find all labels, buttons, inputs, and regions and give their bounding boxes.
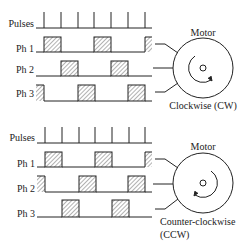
pulse-train xyxy=(36,12,152,28)
ph1-label: Ph 1 xyxy=(17,158,35,169)
motor-wires xyxy=(153,159,178,209)
ph2-waveform xyxy=(37,176,152,192)
motor-label: Motor xyxy=(191,141,217,152)
motor-label: Motor xyxy=(191,27,217,38)
ccw-panel: Pulses Ph 1 Ph 2 Ph 3 xyxy=(9,127,235,241)
ph2-label: Ph 2 xyxy=(17,183,35,194)
motor-wires xyxy=(153,44,178,92)
motor-cw xyxy=(173,38,233,98)
ph3-waveform xyxy=(36,85,152,101)
ph2-label: Ph 2 xyxy=(16,64,34,75)
direction-label: Counter-clockwise xyxy=(160,216,236,227)
stepper-motor-timing-diagram: Pulses Ph 1 Ph 2 Ph 3 xyxy=(0,0,247,245)
pulses-label: Pulses xyxy=(9,132,35,143)
direction-label: Clockwise (CW) xyxy=(169,100,237,112)
pulse-train xyxy=(37,127,152,143)
ph3-waveform xyxy=(37,200,152,217)
direction-label-abbr: (CCW) xyxy=(160,229,189,241)
ph1-waveform xyxy=(37,152,152,167)
ph2-waveform xyxy=(36,61,152,76)
ph1-waveform xyxy=(36,37,152,52)
motor-ccw xyxy=(173,153,233,213)
ph3-label: Ph 3 xyxy=(17,208,35,219)
ph1-label: Ph 1 xyxy=(16,43,34,54)
ph3-label: Ph 3 xyxy=(16,88,34,99)
pulses-label: Pulses xyxy=(8,18,34,29)
cw-panel: Pulses Ph 1 Ph 2 Ph 3 xyxy=(8,12,236,112)
